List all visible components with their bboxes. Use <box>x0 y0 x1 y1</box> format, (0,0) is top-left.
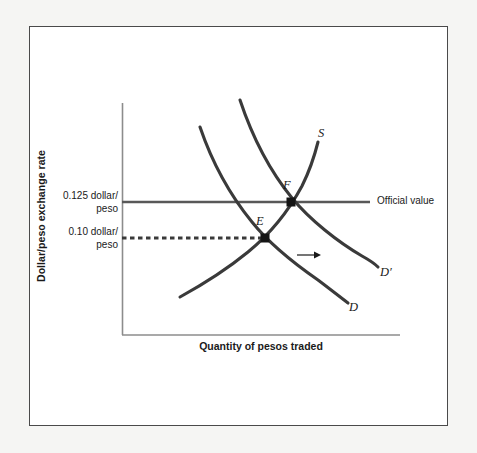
point-label-e: E <box>256 214 264 229</box>
figure-root: Dollar/peso exchange rate Quantity of pe… <box>0 0 477 453</box>
demand-curve-label: D <box>349 300 358 315</box>
supply-curve-label: S <box>318 126 324 141</box>
point-marker-e <box>261 234 270 243</box>
demand-curve-d <box>200 127 348 303</box>
y-tick-label-lower: 0.10 dollar/ peso <box>38 226 118 251</box>
y-axis-title: Dollar/peso exchange rate <box>35 131 47 301</box>
point-marker-f <box>287 198 296 207</box>
demand-shifted-curve-label: D′ <box>380 265 392 280</box>
point-label-f: F <box>283 178 291 193</box>
official-value-label: Official value <box>377 195 434 206</box>
demand-shift-arrow <box>297 252 321 259</box>
x-axis-title: Quantity of pesos traded <box>122 340 400 352</box>
y-tick-label-upper: 0.125 dollar/ peso <box>38 190 118 215</box>
